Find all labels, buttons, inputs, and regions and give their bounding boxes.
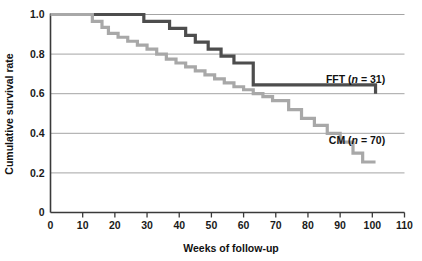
x-axis-title: Weeks of follow-up xyxy=(183,242,278,254)
x-tick-label: 60 xyxy=(238,219,250,231)
x-tick-label: 10 xyxy=(77,219,89,231)
y-tick-label: 1.0 xyxy=(30,8,45,20)
x-tick-label: 0 xyxy=(48,219,54,231)
kaplan-meier-plot: 0102030405060708090100110 00.20.40.60.81… xyxy=(0,0,422,261)
x-tick-label: 20 xyxy=(109,219,121,231)
series-label-cm: CM (n = 70) xyxy=(329,134,385,146)
x-tick-label: 40 xyxy=(173,219,185,231)
y-tick-label: 0.6 xyxy=(30,87,45,99)
y-tick-label: 0.2 xyxy=(30,167,45,179)
x-tick-label: 30 xyxy=(141,219,153,231)
survival-chart: 0102030405060708090100110 00.20.40.60.81… xyxy=(0,0,422,261)
x-tick-label: 80 xyxy=(302,219,314,231)
x-tick-label: 70 xyxy=(270,219,282,231)
x-tick-label: 50 xyxy=(206,219,218,231)
y-axis-title: Cumulative survival rate xyxy=(3,53,15,175)
x-tick-label: 110 xyxy=(396,219,413,231)
y-tick-label: 0 xyxy=(39,206,45,218)
y-tick-label: 0.4 xyxy=(30,127,45,139)
series-label-fft: FFT (n = 31) xyxy=(326,73,385,85)
y-tick-label: 0.8 xyxy=(30,48,45,60)
x-tick-label: 100 xyxy=(364,219,382,231)
x-tick-label: 90 xyxy=(334,219,346,231)
